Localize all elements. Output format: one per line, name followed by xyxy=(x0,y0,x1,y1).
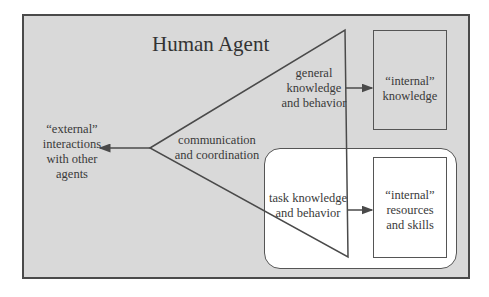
label-line: communication xyxy=(162,133,272,148)
label-line: “external” xyxy=(28,122,116,137)
label-line: knowledge xyxy=(376,89,444,104)
label-line: general xyxy=(281,66,347,81)
label-line: agents xyxy=(28,167,116,182)
label-line: with other xyxy=(28,152,116,167)
label-line: “internal” xyxy=(376,74,444,89)
label-line: interactions xyxy=(28,137,116,152)
label-line: and behavior xyxy=(268,206,348,221)
internal-knowledge-label: “internal” knowledge xyxy=(376,74,444,104)
internal-resources-label: “internal” resources and skills xyxy=(376,188,444,233)
label-line: and skills xyxy=(376,218,444,233)
human-agent-diagram: Human Agent “external” interactions with… xyxy=(0,0,489,297)
label-line: and coordination xyxy=(162,148,272,163)
label-line: “internal” xyxy=(376,188,444,203)
general-knowledge-label: general knowledge and behavior xyxy=(281,66,347,111)
label-line: resources xyxy=(376,203,444,218)
label-line: and behavior xyxy=(281,96,347,111)
diagram-title: Human Agent xyxy=(152,32,269,57)
label-line: task knowledge xyxy=(268,191,348,206)
communication-label: communication and coordination xyxy=(162,133,272,163)
external-interactions-label: “external” interactions with other agent… xyxy=(28,122,116,182)
label-line: knowledge xyxy=(281,81,347,96)
task-knowledge-label: task knowledge and behavior xyxy=(268,191,348,221)
